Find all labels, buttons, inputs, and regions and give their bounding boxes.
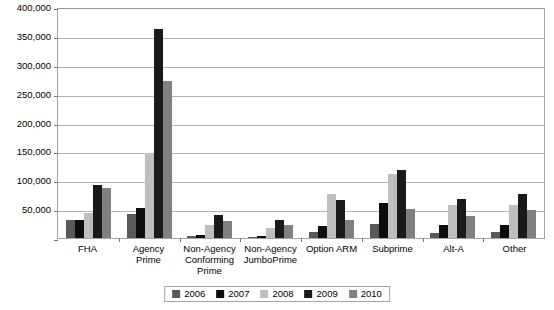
legend-label: 2009 (317, 289, 338, 299)
bar-2006[interactable] (309, 232, 318, 238)
bar-group (58, 9, 119, 238)
bar-2010[interactable] (527, 210, 536, 238)
bar-2008[interactable] (266, 228, 275, 238)
bar-2009[interactable] (93, 185, 102, 238)
bar-2008[interactable] (84, 213, 93, 238)
x-axis-label: Non-Agency Conforming Prime (179, 243, 240, 276)
bar-group (301, 9, 362, 238)
bar-2006[interactable] (370, 224, 379, 238)
legend-swatch-icon (216, 290, 224, 298)
plot-area (57, 8, 545, 239)
bar-2007[interactable] (196, 235, 205, 238)
y-tick-label: 250,000 (17, 90, 51, 100)
bar-2009[interactable] (154, 29, 163, 238)
bar-group (483, 9, 544, 238)
bar-2009[interactable] (214, 215, 223, 238)
x-tick-mark (423, 238, 424, 242)
x-axis-label: Alt-A (423, 243, 484, 276)
y-tick-label: 50,000 (22, 205, 51, 215)
x-tick-mark (301, 238, 302, 242)
bar-2010[interactable] (406, 209, 415, 238)
y-tick-label: 150,000 (17, 147, 51, 157)
bar-2007[interactable] (439, 225, 448, 238)
bar-2007[interactable] (318, 226, 327, 238)
x-tick-mark (180, 238, 181, 242)
bar-2008[interactable] (145, 153, 154, 238)
bar-2008[interactable] (448, 205, 457, 238)
bar-2006[interactable] (187, 236, 196, 238)
bar-chart: 50,000100,000150,000200,000250,000300,00… (0, 0, 554, 310)
bar-groups (58, 9, 544, 238)
bar-2010[interactable] (466, 216, 475, 238)
bar-2007[interactable] (136, 208, 145, 238)
bar-2006[interactable] (248, 237, 257, 238)
bar-2010[interactable] (284, 225, 293, 238)
bar-group (119, 9, 180, 238)
bar-2006[interactable] (491, 232, 500, 238)
legend-item-2006[interactable]: 2006 (172, 289, 205, 299)
legend-label: 2010 (361, 289, 382, 299)
x-axis-label: FHA (57, 243, 118, 276)
bar-2008[interactable] (327, 194, 336, 238)
bar-2010[interactable] (163, 81, 172, 238)
y-tick-label: 400,000 (17, 3, 51, 13)
legend-swatch-icon (305, 290, 313, 298)
legend-item-2008[interactable]: 2008 (260, 289, 293, 299)
y-tick-label: 350,000 (17, 32, 51, 42)
chart-legend: 20062007200820092010 (164, 286, 390, 302)
y-tick-label: 200,000 (17, 119, 51, 129)
bar-2007[interactable] (75, 220, 84, 238)
bar-group (240, 9, 301, 238)
bar-2006[interactable] (66, 220, 75, 238)
y-tick-label: 300,000 (17, 61, 51, 71)
bar-2007[interactable] (379, 203, 388, 238)
x-tick-mark (362, 238, 363, 242)
x-axis-label: Other (484, 243, 545, 276)
bar-2006[interactable] (430, 233, 439, 238)
bar-2008[interactable] (388, 174, 397, 238)
bar-group (362, 9, 423, 238)
x-axis-label: Non-Agency JumboPrime (240, 243, 301, 276)
bar-2010[interactable] (345, 220, 354, 238)
x-tick-mark (483, 238, 484, 242)
bar-group (180, 9, 241, 238)
bar-group (423, 9, 484, 238)
bar-2009[interactable] (397, 170, 406, 238)
x-axis: FHAAgency PrimeNon-Agency Conforming Pri… (57, 243, 545, 276)
bar-2007[interactable] (500, 225, 509, 238)
bar-2009[interactable] (275, 220, 284, 238)
legend-item-2007[interactable]: 2007 (216, 289, 249, 299)
bar-2010[interactable] (102, 188, 111, 238)
legend-item-2009[interactable]: 2009 (305, 289, 338, 299)
bar-2008[interactable] (205, 225, 214, 238)
y-tick-label: 100,000 (17, 176, 51, 186)
bar-2007[interactable] (257, 236, 266, 238)
bar-2009[interactable] (457, 199, 466, 238)
x-tick-mark (240, 238, 241, 242)
legend-label: 2008 (272, 289, 293, 299)
legend-label: 2006 (184, 289, 205, 299)
x-axis-label: Agency Prime (118, 243, 179, 276)
bar-2009[interactable] (518, 194, 527, 238)
legend-label: 2007 (228, 289, 249, 299)
y-axis: 50,000100,000150,000200,000250,000300,00… (0, 0, 57, 239)
legend-swatch-icon (172, 290, 180, 298)
y-tick-mark (54, 240, 58, 241)
x-axis-label: Option ARM (301, 243, 362, 276)
legend-swatch-icon (349, 290, 357, 298)
x-axis-label: Subprime (362, 243, 423, 276)
bar-2006[interactable] (127, 214, 136, 238)
x-tick-mark (119, 238, 120, 242)
bar-2009[interactable] (336, 200, 345, 238)
bar-2010[interactable] (223, 221, 232, 238)
legend-swatch-icon (260, 290, 268, 298)
bar-2008[interactable] (509, 205, 518, 238)
legend-item-2010[interactable]: 2010 (349, 289, 382, 299)
